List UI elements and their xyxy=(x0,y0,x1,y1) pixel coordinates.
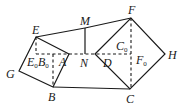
label-b: B xyxy=(48,90,56,104)
segment-em xyxy=(36,28,85,37)
label-m: M xyxy=(79,14,91,28)
segment-bc xyxy=(53,87,130,89)
label-n: N xyxy=(79,56,89,70)
label-e: E xyxy=(31,23,40,37)
label-d: D xyxy=(102,56,112,70)
segment-mf xyxy=(85,18,131,28)
label-e0: E0 xyxy=(26,55,38,70)
label-g: G xyxy=(6,67,15,81)
geometry-diagram: E M F G B C H A N D E0 B0 C0 F0 xyxy=(0,0,181,111)
label-b0: B0 xyxy=(38,55,49,70)
label-c0: C0 xyxy=(116,39,128,54)
label-f0: F0 xyxy=(135,53,147,68)
label-c: C xyxy=(126,92,135,106)
label-f: F xyxy=(127,3,136,17)
label-a: A xyxy=(58,55,67,69)
label-h: H xyxy=(167,48,178,62)
